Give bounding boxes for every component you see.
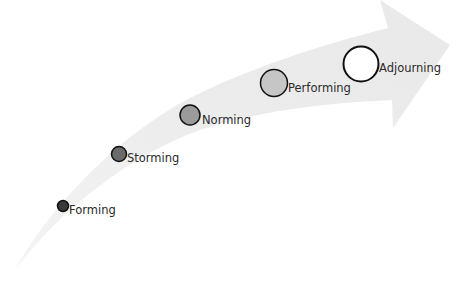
stage-marker-norming (180, 105, 200, 125)
stage-label-adjourning: Adjourning (379, 63, 441, 75)
stage-label-performing: Performing (288, 83, 351, 95)
stage-marker-performing (261, 70, 288, 97)
team-development-diagram: FormingStormingNormingPerformingAdjourni… (0, 0, 473, 285)
curved-arrow (15, 0, 450, 270)
stage-label-storming: Storming (127, 153, 179, 165)
stage-marker-adjourning (344, 47, 379, 82)
stage-marker-forming (58, 201, 69, 212)
stage-marker-storming (112, 147, 127, 162)
diagram-canvas (0, 0, 473, 285)
stage-label-forming: Forming (69, 205, 116, 217)
stage-label-norming: Norming (202, 115, 251, 127)
